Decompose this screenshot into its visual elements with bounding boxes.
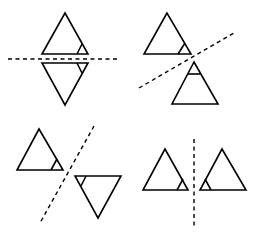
panel-horizontal-reflection: [8, 13, 118, 105]
line-of-symmetry: [40, 126, 94, 223]
original-triangle: [144, 13, 191, 54]
panel-diagonal-reflection-ascending: [139, 13, 234, 104]
panel-diagonal-reflection-steep: [17, 126, 121, 223]
reflected-triangle: [172, 62, 218, 104]
original-triangle: [17, 129, 63, 170]
reflected-triangle: [42, 63, 88, 105]
original-triangle: [42, 13, 88, 54]
panel-vertical-reflection: [143, 139, 246, 229]
reflection-diagram: [0, 0, 262, 241]
reflected-triangle: [75, 176, 121, 218]
